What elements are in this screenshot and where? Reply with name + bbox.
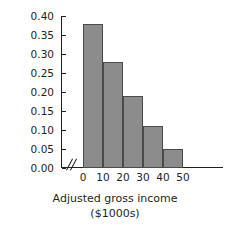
x-axis-tick-label: 10: [93, 171, 113, 183]
x-axis-tick-label: 0: [73, 171, 93, 183]
y-axis-tick-mark: [62, 149, 66, 150]
histogram-bar: [83, 24, 103, 168]
y-axis-tick-mark: [62, 73, 66, 74]
histogram-bar: [103, 62, 123, 168]
y-axis-tick-label: 0.25: [22, 68, 54, 78]
y-axis-tick-label: 0.00: [22, 163, 54, 173]
x-axis-tick-label: 50: [173, 171, 193, 183]
x-axis-title-units: ($1000s): [0, 206, 230, 221]
y-axis-tick-mark: [62, 168, 66, 169]
y-axis-tick-mark: [62, 130, 66, 131]
y-axis-tick-label: 0.10: [22, 125, 54, 135]
histogram-figure: Relative frequency 0.400.350.300.250.200…: [0, 0, 230, 230]
y-axis-tick-mark: [62, 92, 66, 93]
x-axis-title: Adjusted gross income ($1000s): [0, 191, 230, 221]
y-axis-tick-mark: [62, 16, 66, 17]
histogram-bar: [123, 96, 143, 168]
y-axis-tick-mark: [62, 35, 66, 36]
plot-area: [83, 16, 183, 168]
histogram-bar: [143, 126, 163, 168]
y-axis-tick-label: 0.30: [22, 49, 54, 59]
y-axis-tick-label: 0.15: [22, 106, 54, 116]
x-axis-tick-labels: 01020304050: [63, 171, 203, 185]
y-axis-tick-label: 0.05: [22, 144, 54, 154]
x-axis-title-main: Adjusted gross income: [53, 192, 178, 205]
y-axis-tick-label: 0.35: [22, 30, 54, 40]
y-axis-tick-mark: [62, 54, 66, 55]
histogram-bar: [163, 149, 183, 168]
x-axis-tick-label: 30: [133, 171, 153, 183]
y-axis-tick-labels: 0.400.350.300.250.200.150.100.050.00: [22, 14, 54, 166]
y-axis-tick-mark: [62, 111, 66, 112]
y-axis-tick-label: 0.40: [22, 11, 54, 21]
x-axis-tick-label: 20: [113, 171, 133, 183]
y-axis-tick-label: 0.20: [22, 87, 54, 97]
x-axis-tick-label: 40: [153, 171, 173, 183]
